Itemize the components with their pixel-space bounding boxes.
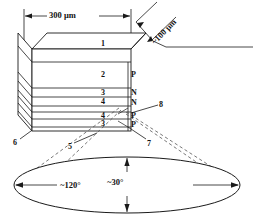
callout-layer-4: 4 [101,98,105,106]
width-dim-arrow-right [123,13,130,18]
depth-leader-group [153,41,253,47]
doping-label-2: N [131,89,137,97]
doping-label-5: P [131,121,136,129]
callout-8: 8 [159,101,163,109]
callout-layer-3b: 3 [101,120,105,128]
block-top-face [32,33,146,49]
callout-6-leader [20,131,31,139]
callout-6: 6 [13,139,17,147]
horizontal-divergence-label: ~120° [60,181,81,190]
block-body [18,33,146,131]
depth-dim-guide-right [157,2,176,17]
width-dimension-label: 300 μm [49,11,76,20]
callout-7: 7 [147,140,151,148]
depth-dim-line-a [136,2,157,22]
depth-dim-arrow-lower [137,22,144,28]
width-dim-arrow-left [25,13,32,18]
callout-layer-3: 3 [101,89,105,97]
callout-5-leader [74,133,97,143]
doping-label-4: P [131,112,136,120]
callout-6-leader-group [20,131,31,139]
diagram-vector-layer [0,0,254,222]
vertical-divergence-label: ~30° [107,178,123,187]
callout-layer-2: 2 [101,71,105,79]
figure-canvas: 300 μm ~100 μm 1 2 3 4 4 3 P N N P P 8 6… [0,0,254,222]
callout-layer-1: 1 [101,40,105,48]
doping-label-1: P [131,71,136,79]
callout-5: 5 [68,143,72,151]
doping-label-3: N [131,99,137,107]
